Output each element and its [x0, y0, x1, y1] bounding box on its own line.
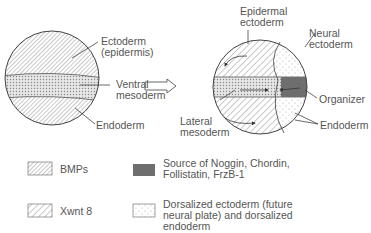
label-epidermal-ectoderm: Epidermal ectoderm — [240, 6, 287, 28]
label-endoderm-left: Endoderm — [96, 120, 144, 131]
label-organizer: Organizer — [319, 94, 365, 105]
label-neural-ectoderm: Neural ectoderm — [309, 28, 353, 50]
label-ectoderm: Ectoderm (epidermis) — [101, 36, 154, 58]
legend-label-bmps: BMPs — [60, 164, 88, 175]
legend-label-xwnt8: Xwnt 8 — [60, 206, 92, 217]
left-embryo — [0, 31, 110, 125]
legend-swatch-dorsalized — [133, 204, 155, 217]
label-endoderm-right: Endoderm — [320, 120, 368, 131]
legend-label-dorsalized: Dorsalized ectoderm (future neural plate… — [163, 199, 293, 232]
label-lateral-mesoderm: Lateral mesoderm — [180, 116, 230, 138]
legend-swatch-organizer — [133, 164, 155, 176]
legend-swatch-xwnt8 — [28, 204, 52, 217]
legend-swatch-bmps — [28, 162, 52, 175]
legend-label-organizer-source: Source of Noggin, Chordin, Follistatin, … — [163, 158, 290, 180]
label-ventral-mesoderm: Ventral mesoderm — [116, 79, 166, 101]
